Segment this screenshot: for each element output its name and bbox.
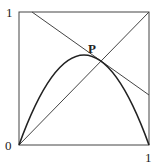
diagonal-line bbox=[19, 12, 149, 145]
x-axis-right-label: 1 bbox=[145, 150, 152, 164]
diagram-canvas: 1 0 1 P bbox=[0, 0, 159, 164]
origin-label: 0 bbox=[5, 138, 12, 153]
parabola-curve bbox=[19, 55, 149, 145]
point-p-label: P bbox=[88, 41, 96, 56]
y-axis-top-label: 1 bbox=[6, 5, 13, 20]
